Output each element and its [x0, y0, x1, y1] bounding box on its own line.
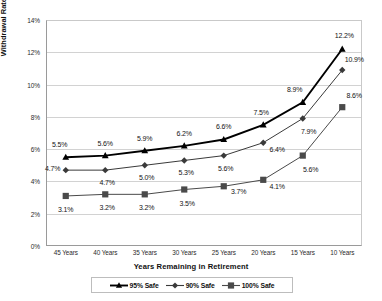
data-point-marker [102, 167, 108, 173]
data-point-label: 10.9% [345, 56, 364, 63]
legend-item[interactable]: 95% Safe [110, 281, 159, 290]
data-point-label: 3.5% [180, 199, 195, 206]
x-axis-title: Years Remaining in Retirement [0, 262, 382, 271]
data-point-label: 5.6% [218, 164, 233, 171]
data-point-label: 5.6% [98, 139, 113, 146]
data-point-label: 3.2% [139, 204, 154, 211]
data-point-marker [181, 157, 187, 163]
x-tick-label: 35 Years [133, 249, 157, 256]
data-point-marker [221, 183, 227, 189]
legend-marker-square-icon [222, 281, 240, 290]
data-point-label: 7.9% [301, 128, 316, 135]
x-tick-label: 20 Years [251, 249, 275, 256]
data-point-marker [181, 186, 187, 192]
x-tick-label: 45 Years [54, 249, 78, 256]
data-point-label: 8.6% [347, 92, 362, 99]
data-point-label: 6.2% [177, 129, 192, 136]
data-point-label: 5.3% [179, 169, 194, 176]
data-point-marker [142, 191, 148, 197]
data-point-marker [260, 177, 266, 183]
data-point-label: 5.9% [137, 134, 152, 141]
x-tick-label: 15 Years [291, 249, 315, 256]
data-point-label: 7.5% [254, 108, 269, 115]
x-axis-ticks: 45 Years40 Years35 Years30 Years25 Years… [46, 249, 362, 261]
x-tick-label: 40 Years [93, 249, 117, 256]
legend-marker-diamond-icon [166, 281, 184, 290]
data-point-marker [300, 153, 306, 159]
data-point-label: 8.9% [287, 86, 302, 93]
x-tick-label: 25 Years [212, 249, 236, 256]
withdrawal-rates-chart: Withdrawal Rates 0%2%4%6%8%10%12%14% 5.5… [0, 0, 382, 301]
data-point-marker [221, 152, 227, 158]
data-point-label: 3.7% [231, 188, 246, 195]
x-tick-label: 30 Years [172, 249, 196, 256]
chart-legend: 95% Safe90% Safe100% Safe [91, 277, 293, 293]
data-point-marker [142, 162, 148, 168]
legend-item[interactable]: 90% Safe [166, 281, 215, 290]
data-point-marker [63, 167, 69, 173]
data-point-label: 3.2% [100, 204, 115, 211]
data-point-marker [339, 104, 345, 110]
legend-marker-triangle-icon [110, 281, 128, 290]
legend-label: 90% Safe [186, 282, 215, 289]
legend-label: 95% Safe [130, 282, 159, 289]
data-point-marker [260, 139, 266, 145]
data-point-label: 12.2% [335, 32, 354, 39]
data-point-label: 6.4% [270, 145, 285, 152]
legend-item[interactable]: 100% Safe [222, 281, 275, 290]
data-point-marker [339, 45, 346, 51]
data-point-label: 5.6% [303, 165, 318, 172]
data-point-label: 5.5% [52, 141, 67, 148]
data-point-label: 6.6% [216, 123, 231, 130]
data-point-marker [63, 193, 69, 199]
data-point-label: 4.1% [270, 182, 285, 189]
data-point-label: 4.7% [45, 165, 60, 172]
legend-label: 100% Safe [242, 282, 275, 289]
data-point-marker [102, 191, 108, 197]
x-tick-label: 10 Years [330, 249, 354, 256]
data-point-label: 3.1% [58, 205, 73, 212]
data-point-label: 4.7% [100, 179, 115, 186]
data-point-label: 5.0% [139, 174, 154, 181]
